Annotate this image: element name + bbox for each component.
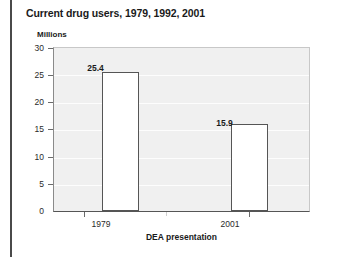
gridline-15 bbox=[54, 130, 309, 131]
x-tick-label-2001: 2001 bbox=[210, 219, 250, 229]
y-tick-label-25: 25 bbox=[4, 70, 44, 80]
gridline-10 bbox=[54, 158, 309, 159]
bar-value-label-1979: 25.4 bbox=[48, 63, 143, 73]
x-tick-mark-center-unlabeled bbox=[166, 212, 167, 216]
bar-chart-figure: Current drug users, 1979, 1992, 2001 Mil… bbox=[0, 0, 337, 257]
bar-2001[interactable] bbox=[231, 124, 268, 211]
gridline-5 bbox=[54, 185, 309, 186]
y-tick-label-30: 30 bbox=[4, 43, 44, 53]
bar-1979[interactable] bbox=[102, 72, 139, 211]
y-tick-label-10: 10 bbox=[4, 152, 44, 162]
gridline-25 bbox=[54, 75, 309, 76]
x-tick-mark-1979 bbox=[84, 212, 85, 217]
y-tick-label-15: 15 bbox=[4, 124, 44, 134]
y-tick-label-20: 20 bbox=[4, 97, 44, 107]
x-tick-label-1979: 1979 bbox=[81, 219, 121, 229]
gridline-20 bbox=[54, 103, 309, 104]
chart-title: Current drug users, 1979, 1992, 2001 bbox=[26, 7, 205, 19]
y-axis-label: Millions bbox=[37, 30, 67, 39]
bar-value-label-2001: 15.9 bbox=[177, 118, 272, 128]
x-tick-mark-2001 bbox=[249, 212, 250, 217]
x-axis-title: DEA presentation bbox=[53, 232, 310, 242]
y-tick-label-5: 5 bbox=[4, 179, 44, 189]
y-tick-label-0: 0 bbox=[4, 206, 44, 216]
